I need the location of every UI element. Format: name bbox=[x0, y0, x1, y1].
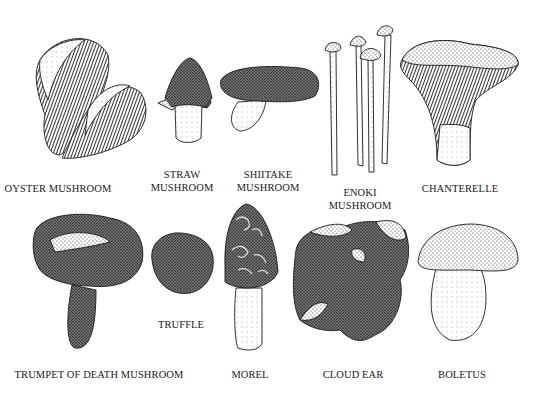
straw-mushroom-drawing bbox=[158, 58, 212, 143]
morel-drawing bbox=[225, 204, 278, 350]
shiitake-mushroom-drawing bbox=[220, 67, 318, 132]
enoki-mushroom-drawing bbox=[325, 26, 393, 175]
mushroom-illustration: OYSTER MUSHROOM STRAWMUSHROOM SHIITAKEMU… bbox=[0, 0, 539, 400]
label-trumpet-of-death: TRUMPET OF DEATH MUSHROOM bbox=[15, 368, 184, 381]
cloud-ear-drawing bbox=[293, 221, 408, 341]
label-boletus: BOLETUS bbox=[438, 368, 486, 381]
trumpet-of-death-drawing bbox=[33, 214, 143, 348]
label-chanterelle: CHANTERELLE bbox=[422, 182, 498, 195]
mushroom-drawings bbox=[0, 0, 539, 400]
label-straw-mushroom: STRAWMUSHROOM bbox=[151, 168, 214, 194]
chanterelle-drawing bbox=[400, 41, 518, 166]
label-oyster-mushroom: OYSTER MUSHROOM bbox=[5, 182, 112, 195]
label-cloud-ear: CLOUD EAR bbox=[323, 368, 384, 381]
label-shiitake-mushroom: SHIITAKEMUSHROOM bbox=[237, 168, 300, 194]
truffle-drawing bbox=[152, 233, 214, 294]
label-enoki-mushroom: ENOKIMUSHROOM bbox=[329, 186, 392, 212]
oyster-mushroom-drawing bbox=[36, 39, 146, 159]
label-truffle: TRUFFLE bbox=[158, 318, 204, 331]
label-morel: MOREL bbox=[231, 368, 268, 381]
boletus-drawing bbox=[418, 224, 518, 340]
